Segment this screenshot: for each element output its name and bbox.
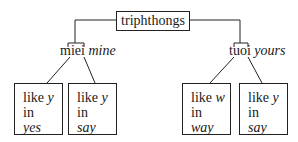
leaf-text: like (23, 90, 44, 105)
leaf-text: like (77, 90, 98, 105)
leaf-sound: y (48, 90, 54, 105)
leaf-text: in (248, 105, 287, 120)
branch-gloss: mine (88, 43, 115, 58)
branch-word: miei (60, 43, 85, 58)
branch-node-miei: miei mine (60, 43, 116, 59)
root-node: triphthongs (116, 11, 190, 31)
root-label: triphthongs (121, 13, 185, 28)
leaf-text: in (191, 105, 230, 120)
leaf-sound: w (216, 90, 225, 105)
leaf-text: like (248, 90, 269, 105)
leaf-example: say (248, 120, 287, 135)
triphthong-diagram: triphthongs miei mine tuoi yours like y … (0, 0, 298, 142)
leaf-sound: y (273, 90, 279, 105)
leaf-box: like y in say (239, 83, 288, 135)
leaf-text: in (23, 105, 62, 120)
branch-word: tuoi (229, 43, 251, 58)
branch-node-tuoi: tuoi yours (229, 43, 285, 59)
leaf-text: like (191, 90, 212, 105)
leaf-box: like y in say (68, 83, 117, 135)
leaf-box: like w in way (182, 83, 231, 135)
leaf-example: say (77, 120, 116, 135)
leaf-example: way (191, 120, 230, 135)
branch-gloss: yours (254, 43, 285, 58)
leaf-example: yes (23, 120, 62, 135)
leaf-box: like y in yes (14, 83, 63, 135)
leaf-text: in (77, 105, 116, 120)
leaf-sound: y (102, 90, 108, 105)
